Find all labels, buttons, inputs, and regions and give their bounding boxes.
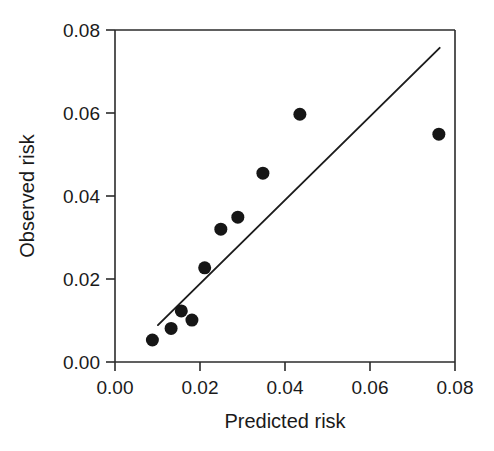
data-point — [432, 128, 445, 141]
y-axis-ticks — [106, 30, 115, 362]
data-point — [146, 334, 159, 347]
data-point — [198, 261, 211, 274]
plot-canvas: 0.08 0.06 0.04 0.02 0.00 0.00 0.02 0.04 … — [0, 0, 494, 451]
scatter-series-risk-deciles — [146, 108, 445, 347]
data-point — [256, 167, 269, 180]
x-axis-ticks — [115, 362, 455, 371]
y-tick-label-0: 0.00 — [63, 352, 100, 373]
data-point — [165, 322, 178, 335]
data-point — [214, 223, 227, 236]
y-tick-label-1: 0.02 — [63, 269, 100, 290]
y-axis-title: Observed risk — [16, 133, 38, 257]
x-axis-tick-labels: 0.00 0.02 0.04 0.06 0.08 — [97, 377, 474, 398]
y-axis-tick-labels: 0.08 0.06 0.04 0.02 0.00 — [63, 20, 100, 373]
x-tick-label-0: 0.00 — [97, 377, 134, 398]
data-point — [175, 304, 188, 317]
y-tick-label-3: 0.06 — [63, 103, 100, 124]
y-tick-label-4: 0.08 — [63, 20, 100, 41]
x-tick-label-2: 0.04 — [267, 377, 304, 398]
scatter-plot-figure: 0.08 0.06 0.04 0.02 0.00 0.00 0.02 0.04 … — [0, 0, 494, 451]
data-point — [185, 314, 198, 327]
data-point — [293, 108, 306, 121]
data-point — [231, 211, 244, 224]
x-tick-label-4: 0.08 — [437, 377, 474, 398]
x-tick-label-1: 0.02 — [182, 377, 219, 398]
reference-line — [158, 48, 440, 325]
x-axis-title: Predicted risk — [224, 410, 346, 432]
x-tick-label-3: 0.06 — [352, 377, 389, 398]
y-tick-label-2: 0.04 — [63, 186, 100, 207]
